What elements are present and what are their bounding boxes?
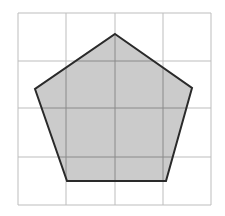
diagram-canvas [0, 0, 225, 216]
